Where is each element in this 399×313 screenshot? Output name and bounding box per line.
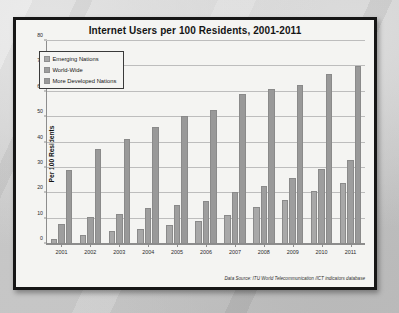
bar[interactable] xyxy=(152,127,159,244)
bar[interactable] xyxy=(318,169,325,244)
bar[interactable] xyxy=(124,139,131,244)
x-tick-label: 2004 xyxy=(142,249,154,255)
bar-group: 2005 xyxy=(163,41,192,244)
bar[interactable] xyxy=(87,217,94,244)
x-tick-mark xyxy=(293,244,294,247)
legend-label: World-Wide xyxy=(53,67,83,73)
y-tick-label: 40 xyxy=(37,134,43,140)
chart-title: Internet Users per 100 Residents, 2001-2… xyxy=(16,25,374,36)
bar[interactable] xyxy=(58,224,65,244)
bar[interactable] xyxy=(210,110,217,244)
bar[interactable] xyxy=(145,208,152,244)
bar[interactable] xyxy=(232,192,239,244)
legend-item[interactable]: World-Wide xyxy=(44,67,116,73)
x-tick-mark xyxy=(206,244,207,247)
bar[interactable] xyxy=(116,214,123,244)
x-tick-label: 2011 xyxy=(345,249,357,255)
chart-frame: Internet Users per 100 Residents, 2001-2… xyxy=(13,17,377,290)
chart-legend: Emerging NationsWorld-WideMore Developed… xyxy=(39,51,124,89)
bar-group: 2004 xyxy=(134,41,163,244)
bar-group: 2009 xyxy=(278,41,307,244)
x-tick-label: 2010 xyxy=(316,249,328,255)
bar[interactable] xyxy=(80,235,87,244)
slide-background: Internet Users per 100 Residents, 2001-2… xyxy=(0,0,399,313)
bar[interactable] xyxy=(95,149,102,244)
x-tick-mark xyxy=(322,244,323,247)
bar[interactable] xyxy=(66,170,73,244)
y-tick-label: 50 xyxy=(37,108,43,114)
bar[interactable] xyxy=(166,225,173,244)
source-note: Data Source: ITU World Telecommunication… xyxy=(224,276,365,281)
y-tick-label: 0 xyxy=(40,235,43,241)
bar[interactable] xyxy=(181,116,188,244)
y-tick-label: 80 xyxy=(37,32,43,38)
legend-label: More Developed Nations xyxy=(53,78,117,84)
bar[interactable] xyxy=(137,229,144,244)
legend-label: Emerging Nations xyxy=(53,56,99,62)
bar[interactable] xyxy=(253,207,260,244)
bar[interactable] xyxy=(261,186,268,244)
y-tick-label: 10 xyxy=(37,210,43,216)
x-tick-label: 2008 xyxy=(258,249,270,255)
legend-item[interactable]: More Developed Nations xyxy=(44,78,116,84)
bar[interactable] xyxy=(174,205,181,244)
bar[interactable] xyxy=(239,94,246,244)
bar-group: 2007 xyxy=(220,41,249,244)
bar[interactable] xyxy=(224,215,231,244)
bar-group: 2008 xyxy=(249,41,278,244)
bar[interactable] xyxy=(297,85,304,244)
legend-swatch-icon xyxy=(44,78,50,84)
x-tick-mark xyxy=(351,244,352,247)
bar[interactable] xyxy=(51,239,58,244)
x-tick-mark xyxy=(119,244,120,247)
x-tick-mark xyxy=(177,244,178,247)
x-tick-mark xyxy=(148,244,149,247)
x-tick-label: 2001 xyxy=(55,249,67,255)
x-tick-label: 2005 xyxy=(171,249,183,255)
x-tick-label: 2002 xyxy=(84,249,96,255)
bar[interactable] xyxy=(282,200,289,244)
x-tick-label: 2009 xyxy=(287,249,299,255)
x-tick-mark xyxy=(235,244,236,247)
bar[interactable] xyxy=(340,183,347,244)
bar-group: 2010 xyxy=(307,41,336,244)
bar[interactable] xyxy=(109,231,116,244)
bar[interactable] xyxy=(311,191,318,244)
x-tick-label: 2007 xyxy=(229,249,241,255)
x-tick-mark xyxy=(264,244,265,247)
bar[interactable] xyxy=(195,221,202,244)
bar-group: 2011 xyxy=(336,41,365,244)
bar[interactable] xyxy=(347,160,354,244)
y-tick-label: 30 xyxy=(37,159,43,165)
x-tick-label: 2006 xyxy=(200,249,212,255)
bar[interactable] xyxy=(326,74,333,244)
bar[interactable] xyxy=(268,89,275,244)
y-tick-label: 20 xyxy=(37,184,43,190)
bar[interactable] xyxy=(355,66,362,244)
x-tick-label: 2003 xyxy=(113,249,125,255)
bar-group: 2006 xyxy=(192,41,221,244)
legend-swatch-icon xyxy=(44,56,50,62)
x-tick-mark xyxy=(61,244,62,247)
x-tick-mark xyxy=(90,244,91,247)
chart-canvas: Internet Users per 100 Residents, 2001-2… xyxy=(16,20,374,287)
bar[interactable] xyxy=(289,178,296,244)
legend-swatch-icon xyxy=(44,67,50,73)
bar[interactable] xyxy=(203,201,210,244)
legend-item[interactable]: Emerging Nations xyxy=(44,56,116,62)
